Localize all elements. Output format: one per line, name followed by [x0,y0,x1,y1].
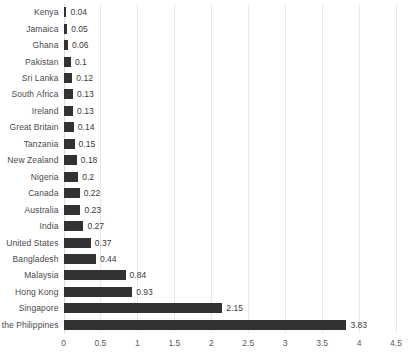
bar [64,303,223,313]
x-tick-label: 0 [61,338,66,348]
bar-row: Pakistan0.1 [64,53,397,69]
bar [64,106,74,116]
bar [64,172,79,182]
bar-row: Kenya0.04 [64,4,397,20]
category-label: Hong Kong [15,287,58,297]
bar-row: United States0.37 [64,234,397,250]
bar-value-label: 0.22 [84,188,101,198]
bar-row: Hong Kong0.93 [64,284,397,300]
x-tick-label: 4.5 [390,338,402,348]
x-tick-label: 3.5 [316,338,328,348]
category-label: the Philippines [2,320,59,330]
bar [64,40,68,50]
bar-row: Australia0.23 [64,201,397,217]
category-label: South Africa [11,89,58,99]
bar [64,270,126,280]
bar-row: India0.27 [64,218,397,234]
bar-row: Great Britain0.14 [64,119,397,135]
bar-value-label: 0.04 [70,7,87,17]
category-label: Ireland [32,106,59,116]
category-label: Singapore [19,303,59,313]
bar-value-label: 0.18 [81,155,98,165]
bar-value-label: 0.1 [75,57,87,67]
bar [64,155,77,165]
bar-value-label: 0.06 [72,40,89,50]
bar-value-label: 0.2 [82,172,94,182]
bar-value-label: 0.37 [95,238,112,248]
bar [64,188,80,198]
bar [64,320,347,330]
bar-value-label: 0.93 [136,287,153,297]
bar-value-label: 0.13 [77,106,94,116]
bar [64,287,133,297]
category-label: Sri Lanka [22,73,59,83]
bar [64,139,75,149]
bar-row: Nigeria0.2 [64,169,397,185]
x-tick-label: 3 [283,338,288,348]
bar-row: Malaysia0.84 [64,267,397,283]
bar-row: South Africa0.13 [64,86,397,102]
category-label: Nigeria [31,172,59,182]
category-label: Bangladesh [13,254,59,264]
bar [64,24,68,34]
category-label: India [40,221,59,231]
bar-value-label: 0.14 [78,122,95,132]
bar-row: Tanzania0.15 [64,136,397,152]
bar-value-label: 0.05 [71,24,88,34]
plot-area: Kenya0.04Jamaica0.05Ghana0.06Pakistan0.1… [64,4,397,333]
bar-value-label: 0.15 [79,139,96,149]
bar-row: the Philippines3.83 [64,317,397,333]
bar-row: Singapore2.15 [64,300,397,316]
bar-value-label: 0.13 [77,89,94,99]
x-tick-label: 1.5 [168,338,180,348]
bar [64,238,91,248]
bar-row: New Zealand0.18 [64,152,397,168]
bar-value-label: 0.23 [84,205,101,215]
gridline [396,4,397,333]
category-label: Malaysia [24,270,58,280]
x-tick-label: 2 [209,338,214,348]
bar-value-label: 0.12 [76,73,93,83]
bar-value-label: 2.15 [226,303,243,313]
bar [64,7,67,17]
bar-row: Bangladesh0.44 [64,251,397,267]
x-axis: 00.511.522.533.544.5 [64,333,397,359]
bar-row: Jamaica0.05 [64,20,397,36]
bar-row: Canada0.22 [64,185,397,201]
x-tick-label: 4 [357,338,362,348]
bar-row: Sri Lanka0.12 [64,70,397,86]
category-label: New Zealand [7,155,58,165]
category-label: Tanzania [24,139,59,149]
bar-value-label: 3.83 [350,320,367,330]
category-label: Kenya [34,7,59,17]
category-label: Australia [25,205,59,215]
x-tick-label: 0.5 [95,338,107,348]
bar [64,254,97,264]
category-label: Great Britain [9,122,58,132]
bar-row: Ghana0.06 [64,37,397,53]
category-label: Canada [28,188,58,198]
bar [64,122,74,132]
category-label: Jamaica [26,24,58,34]
bar-value-label: 0.27 [87,221,104,231]
bar-value-label: 0.44 [100,254,117,264]
horizontal-bar-chart: Kenya0.04Jamaica0.05Ghana0.06Pakistan0.1… [0,0,408,359]
bar [64,205,81,215]
category-label: United States [6,238,58,248]
category-label: Ghana [32,40,58,50]
x-tick-label: 2.5 [242,338,254,348]
bar [64,221,84,231]
bar [64,73,73,83]
bar [64,89,74,99]
category-label: Pakistan [25,57,58,67]
bar [64,57,71,67]
bar-value-label: 0.84 [130,270,147,280]
bar-row: Ireland0.13 [64,103,397,119]
x-tick-label: 1 [135,338,140,348]
